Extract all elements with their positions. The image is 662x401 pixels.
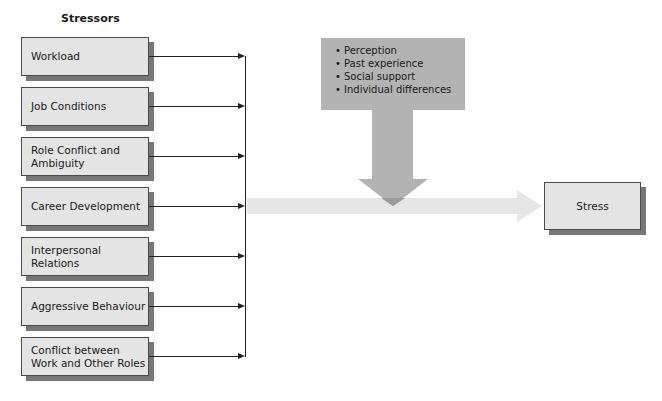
- moderator-item: Perception: [345, 44, 465, 57]
- stress-label: Stress: [576, 200, 608, 212]
- moderator-item: Social support: [345, 70, 465, 83]
- moderator-item: Individual differences: [345, 83, 465, 96]
- moderators-list: Perception Past experience Social suppor…: [321, 38, 465, 96]
- moderators-box: Perception Past experience Social suppor…: [321, 38, 465, 110]
- stress-outcome-box: Stress: [544, 182, 641, 230]
- moderator-item: Past experience: [345, 57, 465, 70]
- moderator-arrow-stem: [372, 110, 413, 180]
